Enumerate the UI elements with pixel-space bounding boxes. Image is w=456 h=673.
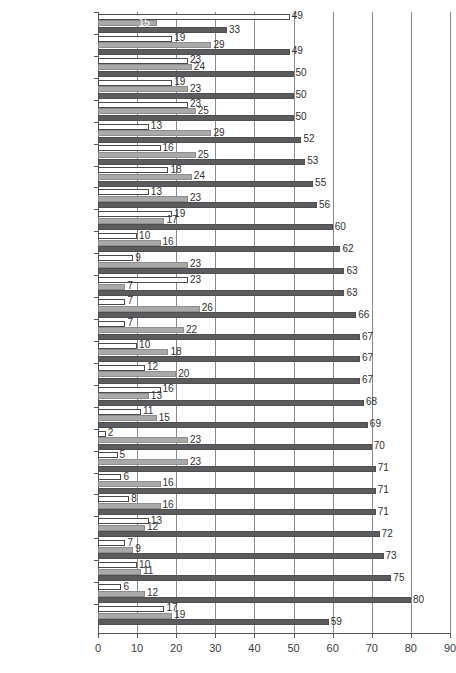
bar-series-3 [98,71,294,77]
bar-series-1 [98,321,125,327]
chart-row: EU 25171959 [98,604,450,626]
chart-row: Greece72666 [98,297,450,319]
x-axis-tick [176,633,177,638]
y-axis-tick [94,516,98,517]
y-axis-tick [94,144,98,145]
chart-row: Estonia162553 [98,144,450,166]
bar-series-2 [98,152,196,158]
chart-row: Ireland23763 [98,275,450,297]
bar-series-1 [98,255,133,261]
bar-series-2 [98,503,161,509]
y-axis-tick [94,385,98,386]
bar-series-1 [98,211,172,217]
x-axis-tick-label: 80 [405,643,417,654]
x-axis-tick [137,633,138,638]
bar-series-3 [98,224,333,230]
y-axis-tick [94,604,98,605]
y-axis-tick [94,560,98,561]
chart-row: Cyprus232550 [98,100,450,122]
bar-series-1 [98,58,188,64]
bar-series-1 [98,233,137,239]
bar-value-label: 59 [331,617,342,627]
chart-row: Czech Republic81671 [98,494,450,516]
bar-series-2 [98,437,188,443]
bar-series-2 [98,86,188,92]
bar-series-2 [98,415,157,421]
y-axis-tick [94,494,98,495]
chart-row: Romania7973 [98,538,450,560]
gridline [450,12,451,634]
bar-series-1 [98,431,106,437]
bar-series-1 [98,496,129,502]
y-axis-tick [94,166,98,167]
bar-series-3 [98,488,376,494]
y-axis-tick [94,209,98,210]
chart-row: Malta72267 [98,319,450,341]
bar-series-1 [98,452,118,458]
y-axis-tick [94,34,98,35]
y-axis-tick [94,12,98,13]
bar-series-2 [98,349,168,355]
bar-series-3 [98,334,360,340]
y-axis-tick [94,429,98,430]
chart-row: Austria132356 [98,187,450,209]
x-axis-tick-label: 90 [444,643,456,654]
chart-row: Lithuania192949 [98,34,450,56]
bar-series-1 [98,474,121,480]
bar-series-1 [98,124,149,130]
bar-series-2 [98,262,188,268]
y-axis-tick [94,407,98,408]
chart-row: Luxembourg161368 [98,385,450,407]
bar-series-2 [98,130,211,136]
chart-row: United Kingdom491533 [98,12,450,34]
bar-series-3 [98,312,356,318]
chart-row: Slovenia131272 [98,516,450,538]
x-axis-tick-label: 10 [131,643,143,654]
bar-value-label: 23 [190,275,201,285]
bar-series-2 [98,327,184,333]
bar-series-1 [98,584,121,590]
bar-series-3 [98,356,360,362]
y-axis-tick [94,100,98,101]
bar-series-1 [98,145,161,151]
y-axis-tick [94,473,98,474]
bar-series-1 [98,343,137,349]
chart-row: Sweden111569 [98,407,450,429]
bar-series-3 [98,619,329,625]
x-axis-tick-label: 40 [248,643,260,654]
y-axis-tick [94,187,98,188]
bar-series-3 [98,400,364,406]
y-axis-tick [94,582,98,583]
bar-value-label: 49 [292,11,303,21]
chart-row: The Netherlands182455 [98,166,450,188]
chart-row: Belgium122067 [98,363,450,385]
bar-series-3 [98,290,344,296]
bar-series-2 [98,196,188,202]
bar-series-3 [98,268,344,274]
bar-series-3 [98,181,313,187]
bar-series-1 [98,80,172,86]
y-axis-tick [94,319,98,320]
bar-series-1 [98,189,149,195]
bar-series-3 [98,27,227,33]
chart-row: Latvia232450 [98,56,450,78]
bar-series-2 [98,613,172,619]
bar-series-2 [98,306,200,312]
chart-row: Poland101175 [98,560,450,582]
bar-series-3 [98,509,376,515]
bar-series-2 [98,371,176,377]
x-axis-tick [294,633,295,638]
bar-series-3 [98,159,305,165]
bar-series-1 [98,562,137,568]
chart-row: Portugal92363 [98,253,450,275]
y-axis-tick [94,363,98,364]
y-axis-tick [94,538,98,539]
bar-series-2 [98,547,133,553]
bar-series-2 [98,591,145,597]
chart-row: Germany132952 [98,122,450,144]
x-axis-tick [372,633,373,638]
chart-row: France191760 [98,209,450,231]
bar-series-1 [98,14,290,20]
bar-series-3 [98,531,380,537]
bar-series-3 [98,115,294,121]
